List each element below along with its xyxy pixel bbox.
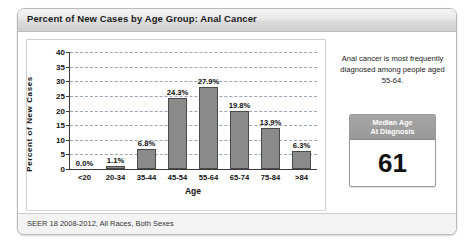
bar-value-label: 1.1% [107,156,124,165]
info-panel: Anal cancer is most frequently diagnosed… [336,39,449,211]
median-age-header-line2: At Diagnosis [371,127,415,136]
panel-title-bar: Percent of New Cases by Age Group: Anal … [18,9,456,32]
y-tick-label: 25 [56,91,65,100]
y-tick-label: 10 [56,135,65,144]
y-tick-label: 20 [56,106,65,115]
gridline [70,52,317,53]
median-age-value: 61 [350,140,435,187]
bar-value-label: 24.3% [167,88,189,97]
x-axis-line [69,169,317,170]
median-age-header-line1: Median Age [372,118,412,127]
bar-rect [168,98,187,169]
bar-rect [261,128,280,169]
y-tick-label: 30 [56,77,65,86]
bar[interactable]: 19.8% [230,111,249,169]
y-tick-label: 0 [61,165,65,174]
y-tick-mark [66,125,69,126]
y-tick-mark [66,111,69,112]
bar[interactable]: 24.3% [168,98,187,169]
x-tick-label: 75-84 [261,173,280,182]
y-tick-label: 5 [61,150,65,159]
chart-panel: Percent of New Cases by Age Group: Anal … [17,8,457,235]
bar-value-label: 0.0% [76,159,93,168]
bar[interactable]: 0.0% [75,169,94,170]
x-tick-label: >84 [295,173,308,182]
bar-rect [199,87,218,169]
x-tick-label: <20 [78,173,91,182]
x-axis-title: Age [69,186,317,196]
plot-inner: 0510152025303540 0.0%1.1%6.8%24.3%27.9%1… [69,52,317,170]
bar[interactable]: 1.1% [106,166,125,169]
bar[interactable]: 6.8% [137,149,156,169]
gridline [70,81,317,82]
x-tick-label: 45-54 [168,173,187,182]
y-tick-mark [66,140,69,141]
y-tick-mark [66,81,69,82]
y-tick-label: 35 [56,62,65,71]
y-tick-label: 15 [56,121,65,130]
bar[interactable]: 27.9% [199,87,218,169]
bar-rect [106,166,125,169]
y-tick-mark [66,96,69,97]
y-tick-label: 40 [56,48,65,57]
chart-card: Percent of New Cases 0510152025303540 0.… [26,39,326,211]
median-age-box: Median Age At Diagnosis 61 [349,114,436,187]
bar-value-label: 19.8% [229,101,251,110]
bar-value-label: 13.9% [260,118,282,127]
gridline [70,111,317,112]
bar-value-label: 6.8% [138,139,155,148]
bar-rect [230,111,249,169]
bar[interactable]: 13.9% [261,128,280,169]
bar-value-label: 6.3% [293,141,310,150]
bar[interactable]: 6.3% [292,151,311,169]
y-tick-mark [66,154,69,155]
page-title: Percent of New Cases by Age Group: Anal … [27,13,257,24]
y-tick-mark [66,67,69,68]
x-tick-label: 55-64 [199,173,218,182]
panel-footer-bar: SEER 18 2008-2012, All Races, Both Sexes [18,213,456,234]
y-tick-mark [66,169,69,170]
x-tick-label: 20-34 [106,173,125,182]
gridline [70,67,317,68]
bar-value-label: 27.9% [198,77,220,86]
plot-area: 0510152025303540 0.0%1.1%6.8%24.3%27.9%1… [69,52,317,170]
gridline [70,96,317,97]
x-tick-label: 35-44 [137,173,156,182]
x-tick-label: 65-74 [230,173,249,182]
info-note: Anal cancer is most frequently diagnosed… [338,53,447,86]
bar-rect [292,151,311,169]
y-axis-title: Percent of New Cases [25,76,34,172]
footer-source-text: SEER 18 2008-2012, All Races, Both Sexes [27,219,174,228]
bar-rect [137,149,156,169]
median-age-header: Median Age At Diagnosis [350,115,435,140]
y-tick-mark [66,52,69,53]
